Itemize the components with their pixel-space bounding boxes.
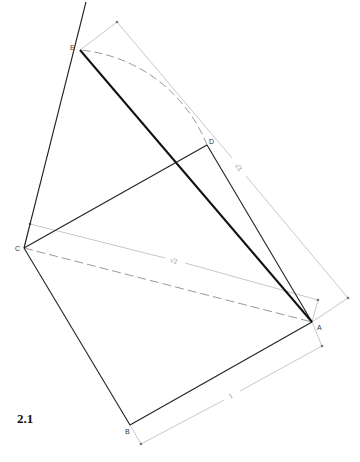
construction-lines [24,22,348,444]
dimension-ticks [29,21,350,446]
point-label-b: B [125,428,130,435]
geometry-diagram: E D C A B √3 √2 1 [0,0,360,462]
side-cd [24,145,207,248]
point-label-d: D [209,138,214,145]
dim-line-ae [117,22,232,158]
dim-line-ab-2 [141,400,224,444]
point-label-a: A [317,324,322,331]
dim-label-one: 1 [227,392,234,401]
line-c-through-e [24,2,86,248]
dim-line-ac [30,224,165,258]
dim-line-ab [240,346,322,391]
figure-label: 2.1 [17,411,33,427]
square-abcd [24,2,312,425]
point-label-e: E [70,44,75,51]
dim-line-ae-ext1 [80,22,117,50]
dim-line-ab-ext2 [130,425,141,444]
side-bc [24,248,130,425]
dim-label-root3: √3 [233,162,244,173]
side-ab [130,322,312,425]
bold-diagonal-ae [80,50,312,322]
side-da [207,145,312,322]
arc-d-to-e [80,50,207,145]
dim-label-root2: √2 [169,256,179,266]
point-label-c: C [15,245,20,252]
dashed-diagonal-ca [24,248,312,322]
